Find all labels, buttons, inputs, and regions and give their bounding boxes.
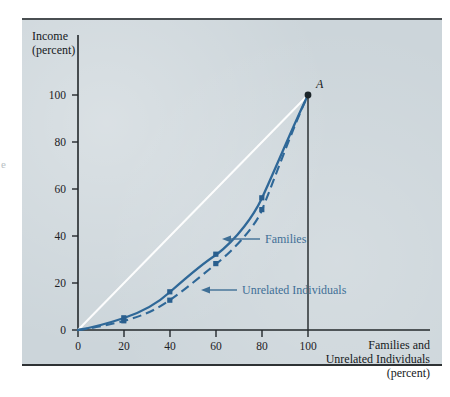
y-axis-title-line-2: (percent) [32, 43, 75, 57]
x-tick-label-20: 20 [118, 340, 130, 352]
y-tick-label-40: 40 [55, 230, 67, 242]
families-annotation-label: Families [265, 232, 307, 246]
x-tick-label-40: 40 [164, 340, 176, 352]
families-marker-40 [167, 289, 172, 294]
x-axis-tick-labels: 0 20 40 60 80 100 [75, 340, 317, 352]
x-tick-label-0: 0 [75, 340, 81, 352]
families-annotation: Families [222, 232, 307, 246]
y-tick-label-80: 80 [55, 136, 67, 148]
unrelated-annotation-arrowhead [201, 287, 210, 294]
unrelated-marker-60 [213, 261, 218, 266]
unrelated-marker-40 [167, 298, 172, 303]
y-axis-tick-labels: 0 20 40 60 80 100 [49, 89, 67, 336]
y-tick-label-100: 100 [49, 89, 67, 101]
x-tick-label-80: 80 [256, 340, 268, 352]
x-axis-title-line-2: Unrelated Individuals [326, 352, 431, 366]
y-tick-label-60: 60 [55, 183, 67, 195]
families-marker-60 [213, 252, 218, 257]
point-a-dot [305, 92, 312, 99]
y-axis-ticks [72, 95, 78, 330]
x-axis-title: Families and Unrelated Individuals (perc… [326, 338, 431, 380]
lorenz-curve-chart: 0 20 40 60 80 100 0 20 40 60 80 100 Inco… [0, 0, 450, 397]
x-axis-title-line-3: (percent) [387, 366, 430, 380]
y-axis-title-line-1: Income [32, 29, 68, 43]
unrelated-marker-20 [121, 318, 126, 323]
y-axis-title: Income (percent) [32, 29, 75, 57]
x-tick-label-60: 60 [210, 340, 222, 352]
unrelated-annotation-label: Unrelated Individuals [242, 283, 347, 297]
y-tick-label-20: 20 [55, 277, 67, 289]
x-axis-title-line-1: Families and [368, 338, 430, 352]
x-axis-ticks [78, 330, 308, 337]
families-marker-80 [259, 195, 264, 200]
y-tick-label-0: 0 [60, 324, 66, 336]
x-tick-label-100: 100 [299, 340, 317, 352]
unrelated-marker-80 [259, 207, 264, 212]
families-annotation-arrowhead [222, 236, 231, 243]
point-a-label: A [315, 77, 324, 91]
unrelated-individuals-annotation: Unrelated Individuals [201, 283, 347, 297]
figure-container: e 0 20 40 60 80 100 [0, 0, 450, 397]
